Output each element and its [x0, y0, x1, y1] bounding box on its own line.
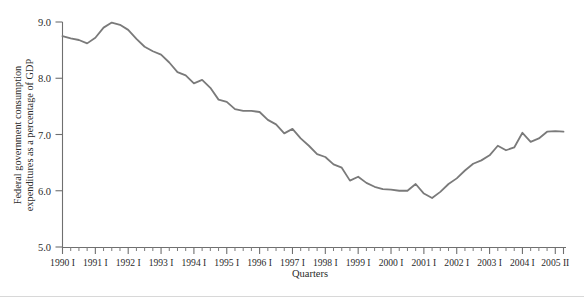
x-axis-title: Quarters: [292, 268, 328, 279]
x-tick-label: 1996 I: [247, 257, 272, 268]
y-tick-label-9: 9.0: [38, 17, 51, 28]
y-tick-label-6: 6.0: [38, 186, 51, 197]
x-tick-label: 1995 I: [214, 257, 239, 268]
y-axis-ticks: [56, 22, 63, 247]
x-tick-label: 2000 I: [379, 257, 404, 268]
x-tick-label: 1994 I: [182, 257, 207, 268]
figure-container: Federal government consumption expenditu…: [0, 0, 584, 297]
y-tick-label-8: 8.0: [38, 73, 51, 84]
x-tick-label: 1997 I: [280, 257, 305, 268]
x-tick-label: 1990 I: [50, 257, 75, 268]
data-series-line: [63, 23, 564, 199]
x-tick-label: 2005 II: [541, 257, 569, 268]
x-tick-label: 1992 I: [116, 257, 141, 268]
x-tick-label: 2004 I: [510, 257, 535, 268]
x-tick-label: 1991 I: [83, 257, 108, 268]
y-axis-title-line1: Federal government consumption: [12, 66, 23, 204]
y-axis-title: Federal government consumption expenditu…: [12, 59, 35, 212]
y-tick-label-5: 5.0: [38, 242, 51, 253]
x-tick-label: 1998 I: [313, 257, 338, 268]
x-tick-label: 1999 I: [346, 257, 371, 268]
x-axis-tick-labels: 1990 I1991 I1992 I1993 I1994 I1995 I1996…: [50, 257, 569, 268]
x-tick-label: 2002 I: [444, 257, 469, 268]
line-chart: Federal government consumption expenditu…: [0, 0, 584, 297]
y-axis-title-line2: expenditures as a percentage of GDP: [24, 59, 35, 212]
x-tick-label: 2003 I: [477, 257, 502, 268]
x-tick-label: 2001 I: [411, 257, 436, 268]
y-axis-tick-labels: 9.0 8.0 7.0 6.0 5.0: [38, 17, 51, 253]
x-tick-label: 1993 I: [149, 257, 174, 268]
y-tick-label-7: 7.0: [38, 130, 51, 141]
